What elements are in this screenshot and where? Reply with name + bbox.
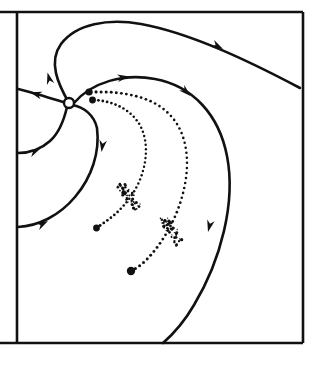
trajectory-dot bbox=[135, 186, 137, 188]
cluster-dot bbox=[126, 197, 128, 199]
trajectory-dot bbox=[113, 214, 116, 217]
trajectory-dot bbox=[138, 123, 140, 125]
dotted-trajectories-group bbox=[89, 90, 188, 272]
cluster-dot bbox=[179, 238, 180, 239]
cluster-dot bbox=[168, 231, 171, 234]
equilibrium-node-group bbox=[64, 98, 74, 108]
trajectory-dot bbox=[169, 225, 172, 228]
trajectory-dot bbox=[100, 90, 103, 93]
cluster-dot bbox=[167, 218, 168, 219]
cluster-dot bbox=[166, 228, 167, 229]
cluster-dot bbox=[138, 205, 141, 208]
trajectory-dot bbox=[110, 216, 113, 219]
cluster-dot bbox=[134, 208, 136, 210]
plot-border bbox=[0, 12, 303, 343]
trajectory-dot bbox=[184, 146, 187, 149]
arrowhead-arrow-right-bottom-outflow bbox=[204, 219, 214, 232]
cluster-dot bbox=[170, 221, 173, 224]
trajectory-dot bbox=[144, 157, 146, 159]
cluster-dot bbox=[131, 192, 134, 195]
trajectory-dot bbox=[154, 102, 157, 105]
flow-curve-separatrix-outer-right bbox=[74, 77, 230, 343]
cluster-dot bbox=[124, 191, 126, 193]
trajectory-dot bbox=[110, 91, 113, 94]
trajectory-dot bbox=[106, 101, 109, 104]
trajectory-dot bbox=[95, 90, 98, 93]
trajectory-dot bbox=[126, 110, 129, 113]
cluster-dot bbox=[176, 237, 177, 238]
trajectory-dot bbox=[135, 95, 138, 98]
equilibrium-node bbox=[64, 98, 74, 108]
cluster-dot bbox=[133, 201, 135, 203]
trajectory-dot bbox=[140, 127, 142, 129]
cluster-dot bbox=[139, 203, 140, 204]
trajectory-dot bbox=[146, 258, 149, 261]
flow-curve-separatrix-big-left-incoming bbox=[18, 105, 98, 227]
trajectory-dot bbox=[122, 107, 125, 110]
trajectory-dot bbox=[142, 261, 145, 264]
trajectory-dot bbox=[178, 127, 181, 130]
trajectory-dot bbox=[137, 182, 139, 184]
trajectory-dot bbox=[101, 100, 104, 103]
trajectory-dot bbox=[180, 197, 183, 200]
trajectory-dot bbox=[143, 135, 145, 137]
trajectory-dot bbox=[182, 137, 185, 140]
trajectory-dot bbox=[149, 100, 152, 103]
trajectory-dot bbox=[135, 119, 138, 122]
cluster-dot bbox=[127, 190, 130, 193]
trajectory-dot bbox=[114, 103, 117, 106]
trajectory-dot bbox=[177, 206, 180, 209]
trajectory-dot bbox=[122, 204, 125, 207]
cluster-dot bbox=[173, 236, 176, 239]
trajectory-dot bbox=[145, 152, 147, 154]
trajectory-dot bbox=[102, 222, 105, 225]
trajectory-dot bbox=[186, 167, 189, 170]
trajectory-dot bbox=[176, 211, 179, 214]
trajectory-dot bbox=[129, 112, 132, 115]
trajectory-dot bbox=[186, 162, 189, 165]
dot-clusters-group bbox=[117, 183, 184, 247]
cluster-dot bbox=[128, 194, 130, 196]
trajectory-dot bbox=[152, 250, 155, 253]
cluster-dot bbox=[163, 227, 165, 229]
trajectory-dot bbox=[142, 170, 144, 172]
trajectory-dot bbox=[182, 192, 185, 195]
trajectory-dot bbox=[186, 157, 189, 160]
trajectory-dot bbox=[144, 144, 146, 146]
trajectory-dot bbox=[110, 102, 113, 105]
trajectory-dot bbox=[166, 111, 169, 114]
cluster-dot bbox=[126, 195, 128, 197]
trajectory-dot bbox=[133, 190, 135, 192]
trajectory-dot bbox=[125, 93, 128, 96]
flow-curve-separatrix-left-outgoing bbox=[18, 89, 66, 103]
trajectory-dot bbox=[161, 238, 164, 241]
cluster-dot bbox=[175, 232, 178, 235]
trajectory-dot bbox=[119, 207, 122, 210]
cluster-dot bbox=[180, 238, 183, 241]
trajectory-dot bbox=[144, 161, 146, 163]
trajectory-dot bbox=[185, 177, 188, 180]
trajectory-dot bbox=[140, 96, 143, 99]
trajectory-dot bbox=[173, 119, 176, 122]
trajectory-dot bbox=[185, 151, 188, 154]
cluster-dot bbox=[164, 219, 167, 222]
outer-start-dot bbox=[85, 88, 92, 95]
trajectory-dot bbox=[138, 264, 141, 267]
trajectory-dot bbox=[180, 132, 183, 135]
trajectory-dot bbox=[115, 91, 118, 94]
trajectory-dot bbox=[145, 148, 147, 150]
cluster-dot bbox=[160, 217, 162, 219]
cluster-dot bbox=[171, 236, 173, 238]
trajectory-dot bbox=[139, 178, 141, 180]
outer-end-dot bbox=[127, 267, 135, 275]
trajectory-dot bbox=[125, 201, 128, 204]
trajectory-dot bbox=[183, 141, 186, 144]
arrowhead-arrow-up-left-outflow bbox=[44, 72, 54, 86]
cluster-dot bbox=[167, 230, 168, 231]
arrowhead-arrow-inflow-descending bbox=[98, 140, 107, 153]
trajectory-dot bbox=[142, 131, 144, 133]
trajectory-dot bbox=[116, 211, 119, 214]
flow-curve-separatrix-lower-left-incoming bbox=[18, 107, 67, 153]
trajectory-dot bbox=[176, 123, 179, 126]
inner-end-dot bbox=[93, 225, 100, 232]
